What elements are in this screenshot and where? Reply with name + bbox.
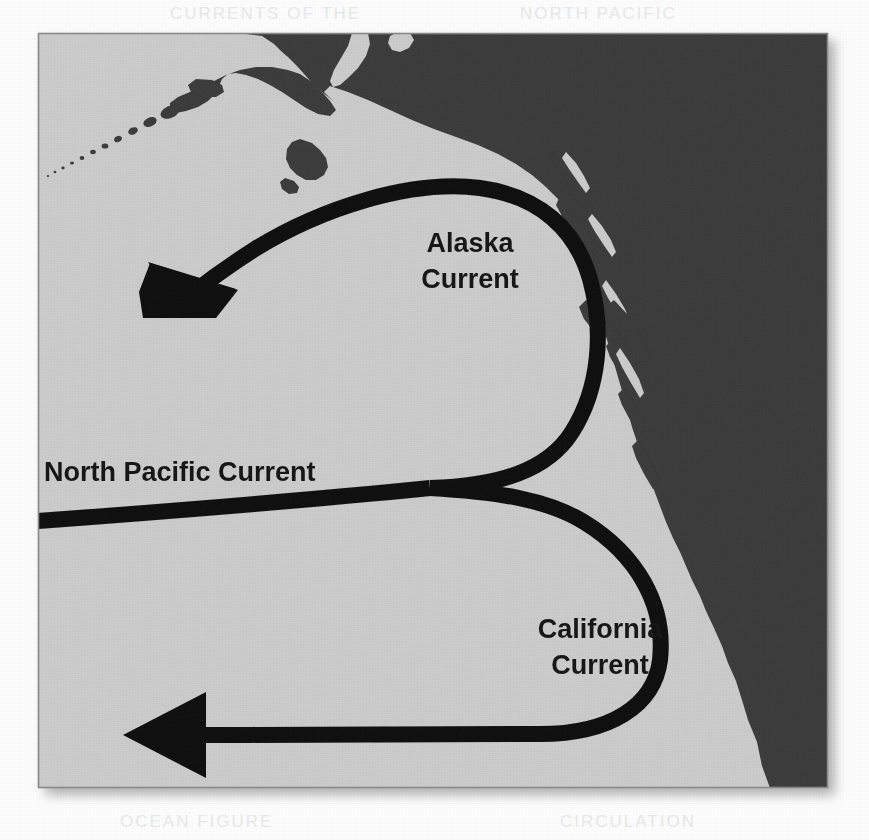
ocean-current-map: Alaska Current North Pacific Current Cal… <box>0 0 869 840</box>
paper-grain <box>38 33 828 788</box>
figure-root: Alaska Current North Pacific Current Cal… <box>0 0 869 840</box>
